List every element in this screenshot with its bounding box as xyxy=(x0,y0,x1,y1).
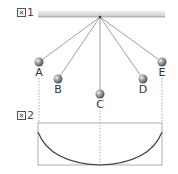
ball-label-A: A xyxy=(33,67,45,78)
ball-label-C: C xyxy=(94,99,106,110)
figure-1-number: 1 xyxy=(27,7,34,18)
figure-mark-icon xyxy=(17,111,26,120)
figure-2-label: 2 xyxy=(17,110,34,121)
ball-label-D: D xyxy=(137,84,149,95)
string-B xyxy=(58,17,100,79)
ceiling-bar xyxy=(38,11,165,17)
string-D xyxy=(100,17,143,79)
pivot-point xyxy=(99,16,101,18)
string-A xyxy=(39,17,100,62)
swing-arc-curve xyxy=(38,132,162,165)
figure-mark-icon xyxy=(17,8,26,17)
pendulum-diagram: 1 2 ABCDE xyxy=(0,0,178,174)
figure-2-number: 2 xyxy=(27,110,34,121)
ball-label-B: B xyxy=(52,84,64,95)
diagram-canvas xyxy=(0,0,178,174)
string-E xyxy=(100,17,162,62)
ball-label-E: E xyxy=(156,67,168,78)
figure-1-label: 1 xyxy=(17,7,34,18)
